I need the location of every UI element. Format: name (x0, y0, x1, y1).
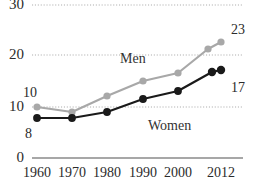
value-label-men-2012: 23 (231, 23, 245, 37)
point-women-2000 (174, 87, 182, 95)
point-women-1980 (103, 108, 111, 116)
point-men-2010 (204, 45, 211, 52)
series-label-men: Men (120, 52, 146, 66)
x-tick-2000: 2000 (156, 166, 200, 180)
y-tick-30: 30 (0, 0, 24, 12)
series-women (33, 66, 225, 122)
point-women-1990 (139, 95, 147, 103)
point-women-1960 (33, 114, 41, 122)
line-chart: 30 20 10 0 1960 1970 1980 1990 2000 2012… (0, 0, 256, 187)
series-women-markers (33, 66, 225, 122)
chart-plot-area (0, 0, 256, 187)
point-men-2000 (174, 69, 181, 76)
point-men-1980 (103, 92, 110, 99)
point-women-2012 (217, 66, 225, 74)
point-women-2010 (208, 68, 216, 76)
value-label-men-1960: 10 (23, 86, 37, 100)
series-label-women: Women (148, 119, 191, 133)
y-tick-0: 0 (0, 150, 24, 165)
value-label-women-1960: 8 (25, 127, 32, 141)
point-men-1960 (33, 103, 40, 110)
y-tick-20: 20 (0, 47, 24, 62)
y-tick-10: 10 (0, 99, 24, 114)
point-women-1970 (68, 114, 76, 122)
point-men-1990 (139, 77, 146, 84)
x-tick-2012: 2012 (199, 166, 243, 180)
value-label-women-2012: 17 (231, 81, 245, 95)
point-men-2012 (217, 38, 224, 45)
